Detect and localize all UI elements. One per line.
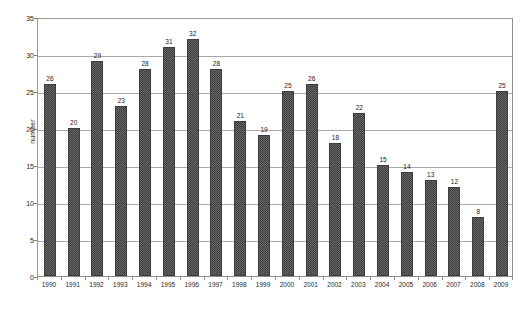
- x-axis-tick-labels: 1990199119921993199419951996199719981999…: [37, 281, 513, 295]
- bar-slot: 23: [109, 19, 133, 276]
- x-tick-mark: [61, 277, 62, 280]
- x-tick-mark: [156, 277, 157, 280]
- bar[interactable]: [187, 39, 199, 276]
- bar-slot: 13: [419, 19, 443, 276]
- bar[interactable]: [377, 165, 389, 276]
- x-tick-mark: [85, 277, 86, 280]
- y-tick-label: 20: [16, 126, 34, 133]
- bar[interactable]: [472, 217, 484, 276]
- bar-value-label: 26: [46, 75, 53, 82]
- bar-value-label: 20: [70, 119, 77, 126]
- bar-value-label: 23: [118, 97, 125, 104]
- bar[interactable]: [210, 69, 222, 276]
- bar-slot: 32: [181, 19, 205, 276]
- bar-slot: 18: [324, 19, 348, 276]
- x-tick-mark: [489, 277, 490, 280]
- bar-value-label: 25: [498, 82, 505, 89]
- y-tick-label: 30: [16, 52, 34, 59]
- bar-value-label: 13: [427, 171, 434, 178]
- bar[interactable]: [353, 113, 365, 276]
- y-tick-label: 25: [16, 89, 34, 96]
- bar-slot: 28: [133, 19, 157, 276]
- bars-layer: 262029232831322821192526182215141312825: [38, 19, 512, 276]
- x-tick-label: 2009: [487, 281, 515, 289]
- bar-value-label: 32: [189, 30, 196, 37]
- x-tick-mark: [346, 277, 347, 280]
- bar-slot: 29: [86, 19, 110, 276]
- x-tick-mark: [251, 277, 252, 280]
- plot-area: 262029232831322821192526182215141312825: [37, 18, 513, 277]
- bar[interactable]: [44, 84, 56, 276]
- bar[interactable]: [329, 143, 341, 276]
- bar-value-label: 14: [403, 163, 410, 170]
- x-tick-mark: [204, 277, 205, 280]
- bar-value-label: 18: [332, 134, 339, 141]
- bar-value-label: 29: [94, 52, 101, 59]
- x-tick-mark: [227, 277, 228, 280]
- bar[interactable]: [163, 47, 175, 276]
- x-tick-mark: [442, 277, 443, 280]
- bar-value-label: 28: [213, 60, 220, 67]
- y-tick-label: 10: [16, 200, 34, 207]
- x-tick-mark: [394, 277, 395, 280]
- x-tick-mark: [275, 277, 276, 280]
- bar-value-label: 31: [165, 38, 172, 45]
- y-tick-label: 5: [16, 237, 34, 244]
- y-tick-label: 15: [16, 163, 34, 170]
- bar[interactable]: [401, 172, 413, 276]
- bar-slot: 25: [276, 19, 300, 276]
- bar-slot: 19: [252, 19, 276, 276]
- bar-slot: 14: [395, 19, 419, 276]
- bar[interactable]: [91, 61, 103, 276]
- y-tick-label: 35: [16, 15, 34, 22]
- x-tick-mark: [323, 277, 324, 280]
- bar-slot: 15: [371, 19, 395, 276]
- x-tick-mark: [37, 277, 38, 280]
- x-tick-mark: [512, 277, 513, 280]
- x-tick-mark: [418, 277, 419, 280]
- bar-slot: 26: [300, 19, 324, 276]
- bar-slot: 22: [347, 19, 371, 276]
- bar-value-label: 19: [260, 126, 267, 133]
- bar[interactable]: [306, 84, 318, 276]
- bar[interactable]: [115, 106, 127, 276]
- bar[interactable]: [234, 121, 246, 276]
- bar-slot: 31: [157, 19, 181, 276]
- bar-slot: 28: [205, 19, 229, 276]
- bar-value-label: 25: [284, 82, 291, 89]
- x-tick-mark: [132, 277, 133, 280]
- y-tick-label: 0: [16, 274, 34, 281]
- bar-value-label: 12: [451, 178, 458, 185]
- x-tick-mark: [299, 277, 300, 280]
- bar[interactable]: [496, 91, 508, 276]
- bar[interactable]: [68, 128, 80, 276]
- bar-slot: 21: [228, 19, 252, 276]
- bar[interactable]: [139, 69, 151, 276]
- bar-chart: number 05101520253035 262029232831322821…: [0, 0, 530, 311]
- bar-slot: 8: [466, 19, 490, 276]
- bar[interactable]: [448, 187, 460, 276]
- bar-slot: 12: [443, 19, 467, 276]
- bar[interactable]: [258, 135, 270, 276]
- bar[interactable]: [282, 91, 294, 276]
- bar-value-label: 8: [476, 208, 480, 215]
- bar-value-label: 22: [356, 104, 363, 111]
- bar-value-label: 26: [308, 75, 315, 82]
- x-tick-mark: [370, 277, 371, 280]
- bar-slot: 26: [38, 19, 62, 276]
- y-axis-tick-labels: 05101520253035: [12, 0, 34, 311]
- bar-value-label: 15: [379, 156, 386, 163]
- x-tick-mark: [465, 277, 466, 280]
- bar-slot: 25: [490, 19, 514, 276]
- bar-value-label: 21: [237, 112, 244, 119]
- bar[interactable]: [425, 180, 437, 276]
- bar-value-label: 28: [141, 60, 148, 67]
- bar-slot: 20: [62, 19, 86, 276]
- x-tick-mark: [108, 277, 109, 280]
- x-tick-mark: [180, 277, 181, 280]
